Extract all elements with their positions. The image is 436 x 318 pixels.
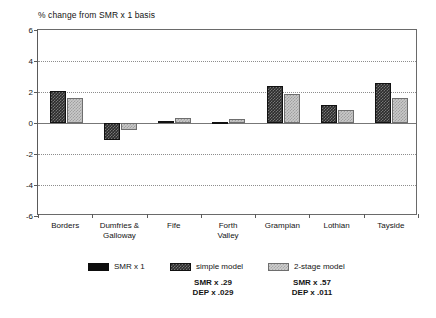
legend-item: simple model: [170, 262, 243, 271]
legend-label: 2-stage model: [294, 262, 345, 271]
bar: [392, 98, 408, 123]
bar: [67, 98, 83, 123]
legend-label: SMR x 1: [114, 262, 145, 271]
x-tick-label: Fife: [144, 221, 204, 231]
bar-group: [92, 30, 146, 214]
y-tick-label: 6: [29, 26, 33, 35]
bar: [212, 122, 228, 124]
bar-group: [38, 30, 92, 214]
bar: [284, 94, 300, 123]
legend-swatch-icon: [268, 263, 289, 271]
x-tick-mark: [38, 214, 39, 218]
bar-group: [147, 30, 201, 214]
x-tick-mark: [147, 214, 148, 218]
x-tick-mark: [364, 214, 365, 218]
chart-title: % change from SMR x 1 basis: [38, 10, 155, 20]
x-tick-mark: [92, 214, 93, 218]
legend-item: 2-stage model: [268, 262, 345, 271]
bar: [104, 123, 120, 140]
bar-group: [364, 30, 418, 214]
y-tick-label: 0: [29, 119, 33, 128]
y-tick-label: -6: [26, 212, 33, 221]
x-tick-label: Dumfries & Galloway: [89, 221, 149, 240]
x-tick-label: Lothian: [307, 221, 367, 231]
bar: [158, 121, 174, 123]
x-tick-label: Forth Valley: [198, 221, 258, 240]
legend-note: SMR x .57 DEP x .011: [292, 278, 332, 298]
bar-group: [201, 30, 255, 214]
legend-item: SMR x 1: [88, 262, 145, 271]
y-tick-label: 4: [29, 57, 33, 66]
legend-swatch-icon: [88, 263, 109, 271]
x-tick-label: Grampian: [252, 221, 312, 231]
plot-area: 6420-2-4-6 BordersDumfries & GallowayFif…: [37, 29, 417, 215]
x-tick-mark: [255, 214, 256, 218]
x-tick-label: Borders: [35, 221, 95, 231]
x-tick-mark: [201, 214, 202, 218]
bar-group: [309, 30, 363, 214]
bar: [50, 91, 66, 123]
x-tick-mark: [418, 214, 419, 218]
y-tick-label: -2: [26, 150, 33, 159]
bar: [321, 105, 337, 123]
bar: [175, 118, 191, 123]
y-tick-label: 2: [29, 88, 33, 97]
bar-series-layer: [38, 30, 416, 214]
bar: [338, 110, 354, 123]
bar-group: [255, 30, 309, 214]
chart-legend: SMR x 1simple modelSMR x .29 DEP x .0292…: [0, 262, 436, 318]
legend-swatch-icon: [170, 263, 191, 271]
bar: [375, 83, 391, 123]
bar: [267, 86, 283, 123]
bar: [229, 119, 245, 123]
y-tick-label: -4: [26, 181, 33, 190]
x-tick-label: Tayside: [361, 221, 421, 231]
bar: [121, 123, 137, 130]
legend-label: simple model: [196, 262, 243, 271]
chart-container: % change from SMR x 1 basis 6420-2-4-6 B…: [0, 0, 436, 318]
legend-note: SMR x .29 DEP x .029: [193, 278, 234, 298]
x-tick-mark: [309, 214, 310, 218]
